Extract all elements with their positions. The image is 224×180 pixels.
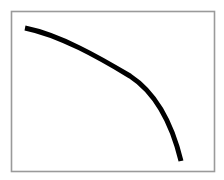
- figure-canvas: [0, 0, 224, 180]
- figure-root: [0, 0, 224, 180]
- plot-border: [12, 12, 215, 172]
